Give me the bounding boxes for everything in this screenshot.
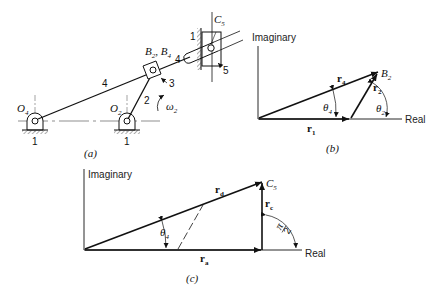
label-theta-4: θ4 [323,101,332,116]
ground-wall-1 [197,28,201,70]
label-link-2: 2 [144,95,150,106]
label-c5: C5 [266,177,277,192]
axis-imaginary-label: Imaginary [252,32,296,43]
axis-real-label: Real [405,114,426,125]
label-rc: rc [265,197,273,212]
label-theta-4: θ4 [160,226,169,241]
label-link-4: 4 [102,78,108,89]
label-b2-b4: B2, B4 [145,45,171,60]
label-link-4-ext: 4 [175,54,181,65]
panel-b-vector-loop: Imaginary Real r4 r1 r2 B2 θ4 θ2 (b) [252,32,426,155]
panel-c-vector-loop: Imaginary Real rd ra rc C5 θ4 π 2 (c) [84,169,326,285]
axis-real-label: Real [305,248,326,259]
label-b2: B2 [381,67,392,82]
label-rd: rd [215,183,224,198]
label-o4: O4 [17,102,29,117]
vector-rd [85,182,262,249]
kinematic-diagram-figure: O4 O2 B2, B4 C5 ω2 4 4 2 3 5 1 1 1 (a) I… [0,0,434,299]
caption-a: (a) [84,147,97,160]
label-r1: r1 [307,122,316,137]
label-ground-1-top: 1 [190,31,196,42]
label-theta-2: θ2 [376,102,385,117]
panel-a-mechanism: O4 O2 B2, B4 C5 ω2 4 4 2 3 5 1 1 1 (a) [17,12,243,160]
label-omega-2: ω2 [166,100,178,115]
label-ground-1-right: 1 [124,136,130,147]
label-link-3: 3 [169,78,175,89]
caption-c: (c) [186,272,199,285]
slider-block-3 [143,61,161,79]
label-ground-1-left: 1 [32,136,38,147]
pin-c5 [208,45,214,51]
label-r2: r2 [373,81,382,96]
omega-2-arrow [157,95,164,111]
label-ra: ra [200,252,209,267]
theta-4-arc [333,90,336,117]
caption-b: (b) [326,142,339,155]
vector-r4 [259,72,378,118]
axis-imaginary-label: Imaginary [88,169,132,180]
label-o2: O2 [110,102,122,117]
label-link-5: 5 [223,65,229,76]
label-c5: C5 [214,13,225,28]
figure-canvas: O4 O2 B2, B4 C5 ω2 4 4 2 3 5 1 1 1 (a) I… [0,0,434,299]
label-r4: r4 [337,72,346,87]
